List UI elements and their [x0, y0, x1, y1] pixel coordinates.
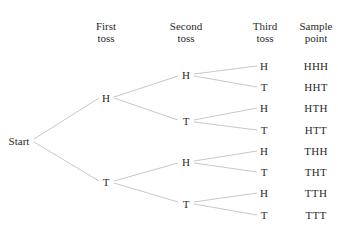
node-second-TH: H	[182, 156, 190, 168]
node-third-HHH: H	[260, 60, 268, 72]
node-second-HT: T	[183, 115, 190, 127]
branch-HH-HHH	[194, 66, 257, 74]
node-third-THT: T	[261, 166, 268, 178]
header-third-toss: Third toss	[253, 20, 277, 44]
coin-toss-tree-diagram: First toss Second toss Third toss Sample…	[0, 0, 338, 233]
node-first-H: H	[102, 92, 110, 104]
node-first-T: T	[103, 176, 110, 188]
branch-start-H	[34, 98, 99, 139]
node-third-THH: H	[260, 145, 268, 157]
branch-TT-TTT	[194, 204, 257, 215]
header-sample-point: Sample point	[300, 20, 333, 44]
node-third-TTT: T	[261, 209, 268, 221]
node-second-HH: H	[182, 69, 190, 81]
branch-HT-HTH	[194, 108, 257, 120]
sample-point-TTH: TTH	[305, 187, 327, 199]
sample-point-THH: THH	[304, 145, 328, 157]
sample-point-THT: THT	[305, 166, 327, 178]
node-third-HHT: T	[261, 81, 268, 93]
node-third-HTH: H	[260, 102, 268, 114]
branch-T-TH	[114, 163, 178, 181]
sample-point-HTH: HTH	[304, 102, 328, 114]
node-third-TTH: H	[260, 187, 268, 199]
branch-HT-HTT	[194, 122, 257, 130]
branch-TT-TTH	[194, 193, 257, 202]
branch-start-T	[34, 142, 99, 181]
header-first-toss: First toss	[96, 20, 116, 44]
sample-point-TTT: TTT	[305, 209, 326, 221]
node-second-TT: T	[183, 198, 190, 210]
branch-T-TT	[114, 183, 178, 202]
branch-HH-HHT	[194, 76, 257, 87]
node-start: Start	[9, 135, 30, 147]
branch-TH-THT	[194, 163, 257, 172]
branch-H-HH	[114, 76, 178, 97]
sample-point-HHH: HHH	[304, 60, 329, 72]
node-third-HTT: T	[261, 124, 268, 136]
branch-TH-THH	[194, 151, 257, 161]
branch-H-HT	[114, 98, 178, 120]
sample-point-HHT: HHT	[304, 81, 328, 93]
header-second-toss: Second toss	[170, 20, 202, 44]
sample-point-HTT: HTT	[305, 124, 327, 136]
